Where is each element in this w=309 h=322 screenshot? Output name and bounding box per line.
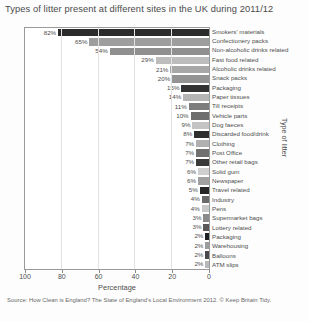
bar-row: 4% — [25, 195, 209, 204]
category-label: Travel related — [212, 186, 290, 195]
bar — [89, 38, 209, 45]
bar-row: 7% — [25, 148, 209, 157]
bar — [110, 48, 209, 55]
x-tick-label: 20 — [168, 273, 176, 280]
bar-value-label: 10% — [176, 113, 188, 119]
category-label: Packaging — [212, 233, 290, 242]
x-tick-label: 40 — [131, 273, 139, 280]
bar — [202, 196, 209, 203]
category-label: Lottery related — [212, 223, 290, 232]
category-label: Discarded food/drink — [212, 130, 290, 139]
bar-row: 7% — [25, 139, 209, 148]
x-tick-label: 80 — [58, 273, 66, 280]
bar-value-label: 7% — [185, 141, 194, 147]
bar — [170, 66, 209, 73]
bar — [196, 140, 209, 147]
bar-row: 3% — [25, 213, 209, 222]
bar-row: 2% — [25, 241, 209, 250]
category-label: Other retail bags — [212, 158, 290, 167]
x-tick-label: 0 — [207, 273, 211, 280]
bar-value-label: 65% — [75, 39, 87, 45]
bar — [196, 149, 209, 156]
category-label: Post Office — [212, 148, 290, 157]
bar-row: 82% — [25, 28, 209, 37]
bar-value-label: 4% — [191, 196, 200, 202]
bar-row: 2% — [25, 260, 209, 269]
bar-value-label: 20% — [158, 76, 170, 82]
bar-value-label: 15% — [167, 85, 179, 91]
gridline — [61, 28, 62, 269]
bar — [194, 131, 209, 138]
bar-value-label: 9% — [182, 122, 191, 128]
bar-value-label: 2% — [194, 261, 203, 267]
category-labels: Smokers' materialsConfectionery packsNon… — [212, 27, 290, 270]
bar-value-label: 8% — [183, 131, 192, 137]
category-label: ATM slips — [212, 261, 290, 270]
category-label: Dog faeces — [212, 120, 290, 129]
x-axis: 100806040200 — [24, 270, 210, 282]
bar — [205, 233, 209, 240]
bar-row: 4% — [25, 204, 209, 213]
bar — [196, 159, 209, 166]
bar-row: 7% — [25, 158, 209, 167]
bar-value-label: 7% — [185, 150, 194, 156]
category-label: Balloons — [212, 251, 290, 260]
bar — [183, 94, 209, 101]
category-label: Till receipts — [212, 102, 290, 111]
bar-value-label: 29% — [141, 57, 153, 63]
bar — [191, 112, 209, 119]
category-label: Fast food related — [212, 55, 290, 64]
y-axis-label: Type of litter — [280, 118, 289, 157]
bar-value-label: 6% — [187, 169, 196, 175]
bar — [200, 187, 209, 194]
bar-value-label: 4% — [191, 206, 200, 212]
category-label: Newspaper — [212, 177, 290, 186]
x-tick-label: 60 — [95, 273, 103, 280]
bar-value-label: 3% — [193, 215, 202, 221]
bar-value-label: 11% — [175, 104, 187, 110]
gridline — [134, 28, 135, 269]
bar-value-label: 2% — [194, 233, 203, 239]
bar-row: 9% — [25, 121, 209, 130]
bar-row: 54% — [25, 47, 209, 56]
category-label: Clothing — [212, 139, 290, 148]
bar-row: 5% — [25, 186, 209, 195]
bar — [205, 261, 209, 268]
bar-value-label: 21% — [156, 67, 168, 73]
gridline — [98, 28, 99, 269]
bar — [192, 122, 209, 129]
plot-area: 82%65%54%29%21%20%15%14%11%10%9%8%7%7%7%… — [24, 27, 210, 270]
bar-row: 6% — [25, 167, 209, 176]
bar-row: 6% — [25, 176, 209, 185]
bar-value-label: 5% — [189, 187, 198, 193]
bar — [203, 224, 209, 231]
bar-row: 29% — [25, 56, 209, 65]
category-label: Non-alcoholic drinks related — [212, 46, 290, 55]
category-label: Supermarket bags — [212, 214, 290, 223]
chart-title: Types of litter present at different sit… — [5, 4, 305, 14]
category-label: Alcoholic drinks related — [212, 64, 290, 73]
category-label: Solid gum — [212, 167, 290, 176]
category-label: Industry — [212, 195, 290, 204]
bar-row: 65% — [25, 37, 209, 46]
bar-row: 14% — [25, 93, 209, 102]
category-label: Confectionery packs — [212, 36, 290, 45]
bar-row: 3% — [25, 223, 209, 232]
bar — [202, 205, 209, 212]
x-axis-label: Percentage — [24, 283, 210, 292]
bar — [205, 242, 209, 249]
bar-value-label: 2% — [194, 252, 203, 258]
category-label: Snack packs — [212, 74, 290, 83]
bar-value-label: 7% — [185, 159, 194, 165]
bar-row: 21% — [25, 65, 209, 74]
gridline — [171, 28, 172, 269]
category-label: Packaging — [212, 83, 290, 92]
bar — [198, 168, 209, 175]
bar-value-label: 82% — [44, 30, 56, 36]
bar — [181, 85, 209, 92]
category-label: Paper tissues — [212, 92, 290, 101]
bar-row: 11% — [25, 102, 209, 111]
bar-value-label: 2% — [194, 243, 203, 249]
bar-value-label: 6% — [187, 178, 196, 184]
chart-root: Types of litter present at different sit… — [0, 0, 309, 322]
